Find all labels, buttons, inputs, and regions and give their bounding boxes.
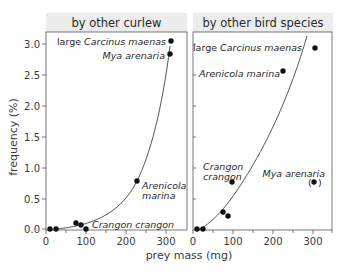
panel-left: by other curlew 3.0 2.5 2.0 1.5 1.0 0.5 … <box>24 13 187 247</box>
annotation-mya-paren-right: ) <box>318 177 322 188</box>
y-axis-left <box>42 44 46 229</box>
fit-curve-right <box>198 36 307 230</box>
y-tick-label: 0.5 <box>24 194 40 205</box>
annotation-arenicola-left-2: marina <box>142 190 176 201</box>
y-tick-label: 3.0 <box>24 39 40 50</box>
x-tick-label: 300 <box>303 236 322 247</box>
y-tick-label: 1.0 <box>24 163 40 174</box>
fit-curve-left <box>56 46 170 229</box>
annotation-mya-left: Mya arenaria <box>103 50 166 61</box>
x-tick-label: 200 <box>116 236 135 247</box>
x-axis-title: prey mass (mg) <box>146 249 233 262</box>
y-tick-label: 2.5 <box>24 70 40 81</box>
x-tick-label: 100 <box>76 236 95 247</box>
y-tick-label: 0.0 <box>24 224 40 235</box>
annotation-carcinus-right: large Carcinus maenas <box>193 42 302 53</box>
annotation-carcinus-left: large Carcinus maenas <box>57 36 166 47</box>
x-tick-label: 0 <box>43 236 49 247</box>
x-tick-label: 100 <box>223 236 242 247</box>
annotation-crangon-left: Crangon crangon <box>92 219 174 230</box>
panel-left-title: by other curlew <box>71 16 161 30</box>
x-tick-label: 0 <box>190 236 196 247</box>
x-axis-left <box>46 230 166 234</box>
chart-figure: by other curlew 3.0 2.5 2.0 1.5 1.0 0.5 … <box>0 0 348 277</box>
x-axis-right <box>193 230 332 234</box>
data-points-left <box>47 38 173 231</box>
annotation-crangon-right-2: crangon <box>203 171 242 182</box>
panel-right-frame <box>193 32 332 230</box>
annotation-mya-paren-left: ( <box>308 177 312 188</box>
y-axis-title: frequency (%) <box>7 98 20 176</box>
annotation-arenicola-right: Arenicola marina <box>198 68 280 79</box>
annotation-mya-right: Mya arenaria <box>263 168 326 179</box>
x-tick-label: 200 <box>263 236 282 247</box>
y-tick-label: 1.5 <box>24 132 40 143</box>
y-tick-label: 2.0 <box>24 101 40 112</box>
panel-right: by other bird species 0 100 200 300 <box>190 13 333 247</box>
x-tick-label: 300 <box>156 236 175 247</box>
y-axis-right <box>193 44 196 199</box>
panel-right-title: by other bird species <box>203 16 324 30</box>
